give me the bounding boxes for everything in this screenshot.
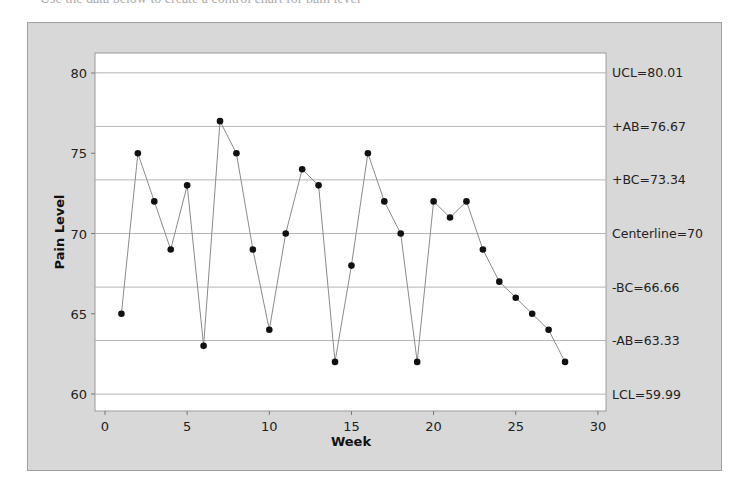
x-tick-label: 30 (590, 419, 607, 434)
data-point (430, 198, 437, 205)
y-tick-label: 60 (70, 387, 87, 402)
reference-line-label: +BC=73.34 (612, 172, 686, 187)
data-point (184, 182, 191, 189)
data-point (562, 359, 569, 366)
control-chart: UCL=80.01+AB=76.67+BC=73.34Centerline=70… (0, 0, 736, 495)
data-point (315, 182, 322, 189)
data-point (151, 198, 158, 205)
x-tick-label: 15 (343, 419, 360, 434)
data-point (217, 118, 224, 125)
x-axis-title: Week (331, 434, 372, 449)
data-point (480, 246, 487, 253)
plot-area (95, 53, 606, 411)
data-point (365, 150, 372, 157)
data-point (135, 150, 142, 157)
y-tick-label: 80 (70, 66, 87, 81)
reference-line-label: -AB=63.33 (612, 333, 680, 348)
data-point (233, 150, 240, 157)
data-point (266, 327, 273, 334)
data-point (282, 230, 289, 237)
reference-line-label: Centerline=70 (612, 226, 703, 241)
data-point (414, 359, 421, 366)
data-point (118, 310, 125, 317)
data-point (496, 278, 503, 285)
data-point (332, 359, 339, 366)
data-point (463, 198, 470, 205)
data-point (200, 343, 207, 350)
reference-line-label: -BC=66.66 (612, 280, 679, 295)
x-tick-label: 20 (425, 419, 442, 434)
data-point (512, 294, 519, 301)
y-tick-label: 70 (70, 227, 87, 242)
reference-line-label: LCL=59.99 (612, 387, 681, 402)
x-axis: 051015202530 (101, 411, 606, 434)
data-point (545, 327, 552, 334)
y-axis: 6065707580 (70, 66, 95, 402)
data-point (348, 262, 355, 269)
data-point (299, 166, 306, 173)
x-tick-label: 10 (261, 419, 278, 434)
data-point (447, 214, 454, 221)
x-tick-label: 25 (507, 419, 524, 434)
reference-line-label: +AB=76.67 (612, 119, 686, 134)
reference-line-label: UCL=80.01 (612, 65, 683, 80)
y-tick-label: 75 (70, 146, 87, 161)
reference-line-labels: UCL=80.01+AB=76.67+BC=73.34Centerline=70… (612, 65, 703, 401)
data-point (167, 246, 174, 253)
x-tick-label: 0 (101, 419, 109, 434)
x-tick-label: 5 (183, 419, 191, 434)
data-point (250, 246, 257, 253)
data-point (397, 230, 404, 237)
data-point (529, 310, 536, 317)
y-axis-title: Pain Level (52, 194, 67, 269)
y-tick-label: 65 (70, 307, 87, 322)
data-point (381, 198, 388, 205)
